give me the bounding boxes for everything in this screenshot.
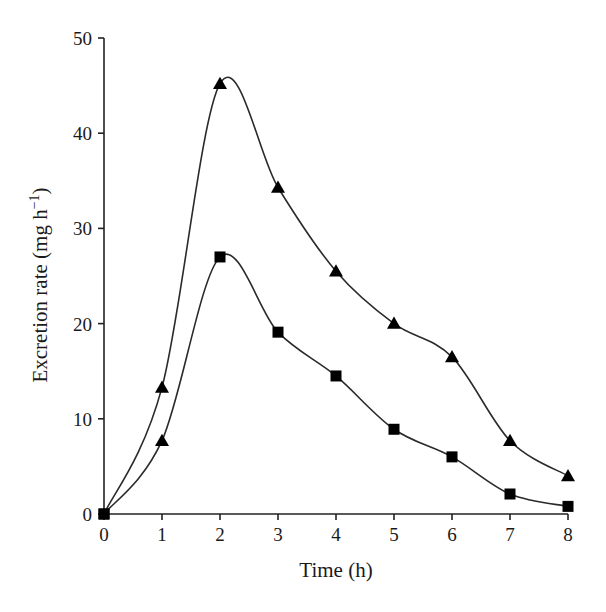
y-tick-label: 30 — [73, 218, 92, 239]
x-tick-label: 4 — [331, 524, 341, 545]
square-marker — [99, 509, 110, 520]
y-tick-label: 20 — [73, 314, 92, 335]
x-axis: 012345678 — [99, 514, 573, 545]
data-curves — [104, 77, 568, 514]
y-tick-label: 10 — [73, 409, 92, 430]
x-tick-label: 7 — [505, 524, 515, 545]
x-tick-label: 0 — [99, 524, 109, 545]
y-axis: 01020304050 — [73, 28, 104, 525]
x-tick-label: 1 — [157, 524, 167, 545]
triangle-marker — [155, 434, 169, 446]
x-tick-label: 2 — [215, 524, 225, 545]
x-tick-label: 3 — [273, 524, 283, 545]
triangle-marker — [155, 380, 169, 392]
x-tick-label: 8 — [563, 524, 573, 545]
y-tick-label: 50 — [73, 28, 92, 49]
triangle-marker — [387, 317, 401, 329]
square-marker — [389, 424, 400, 435]
square-marker — [563, 501, 574, 512]
square-marker — [273, 327, 284, 338]
x-axis-title: Time (h) — [299, 558, 372, 582]
excretion-rate-chart: 01020304050 012345678 Time (h) Excretion… — [0, 0, 606, 612]
y-axis-title: Excretion rate (mg h−1) — [27, 187, 52, 382]
triangle-marker — [271, 180, 285, 192]
series-curve-0 — [104, 77, 568, 514]
square-marker — [215, 251, 226, 262]
y-tick-label: 40 — [73, 123, 92, 144]
square-marker — [331, 370, 342, 381]
square-marker — [447, 451, 458, 462]
data-markers — [99, 77, 576, 520]
series-curve-1 — [104, 254, 568, 514]
x-tick-label: 5 — [389, 524, 399, 545]
triangle-marker — [561, 469, 575, 481]
y-tick-label: 0 — [83, 504, 93, 525]
x-tick-label: 6 — [447, 524, 457, 545]
square-marker — [505, 489, 516, 500]
